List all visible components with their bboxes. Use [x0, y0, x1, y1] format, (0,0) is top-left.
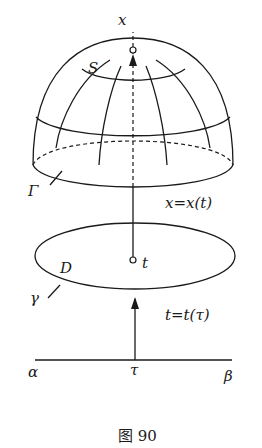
arrowhead-icon	[129, 54, 137, 66]
figure-diagram: x S Γ x=x(t) D t γ t=t(τ) α τ β 图 90	[0, 0, 262, 448]
point-x-marker	[130, 47, 136, 53]
gamma-small-pointer	[48, 285, 60, 298]
label-gamma: γ	[30, 289, 39, 307]
gamma-pointer	[50, 171, 62, 185]
point-t-marker	[130, 257, 136, 263]
domain-ellipse	[35, 223, 235, 289]
label-S: S	[88, 59, 98, 77]
label-D: D	[59, 259, 72, 277]
figure-caption: 图 90	[118, 427, 157, 445]
label-alpha: α	[28, 363, 38, 381]
label-Gamma: Γ	[27, 182, 39, 200]
label-x: x	[118, 11, 127, 29]
label-map-x: x=x(t)	[165, 194, 212, 212]
label-beta: β	[223, 367, 233, 385]
label-map-t: t=t(τ)	[165, 306, 210, 324]
arrowhead-icon	[131, 297, 139, 309]
label-tau: τ	[130, 361, 139, 379]
label-t: t	[142, 254, 149, 272]
